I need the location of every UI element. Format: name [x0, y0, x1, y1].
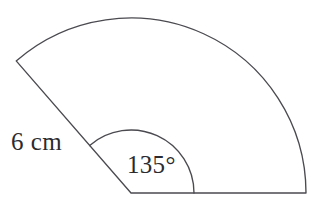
sector-drawing — [0, 0, 313, 220]
sector-figure: 6 cm 135° — [0, 0, 313, 220]
radius-label: 6 cm — [11, 129, 62, 154]
angle-label: 135° — [127, 152, 176, 177]
